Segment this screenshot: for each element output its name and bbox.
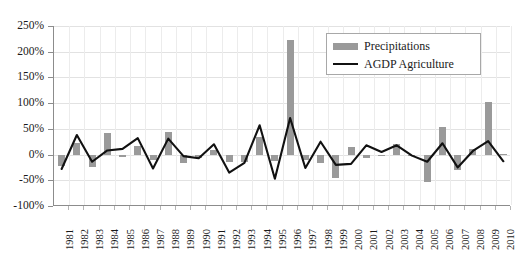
- x-axis-tick-mark: [312, 206, 313, 210]
- y-axis-tick-label: -50%: [19, 174, 44, 185]
- x-axis-tick-mark: [358, 206, 359, 210]
- x-axis-tick-mark: [221, 206, 222, 210]
- x-axis-tick-mark: [175, 206, 176, 210]
- x-axis-tick-label: 1982: [80, 229, 90, 250]
- chart-legend: Precipitations AGDP Agriculture: [326, 33, 481, 75]
- x-axis-tick-mark: [297, 206, 298, 210]
- x-axis-tick-mark: [68, 206, 69, 210]
- y-axis-tick-label: -100%: [13, 200, 44, 211]
- x-axis-tick-mark: [342, 206, 343, 210]
- x-axis-tick-mark: [205, 206, 206, 210]
- x-axis-tick-mark: [510, 206, 511, 210]
- legend-label-agdp-agriculture: AGDP Agriculture: [364, 58, 454, 71]
- x-axis-tick-label: 1993: [247, 229, 257, 250]
- x-axis-tick-label: 2000: [354, 229, 364, 250]
- x-axis-tick-label: 1996: [293, 229, 303, 250]
- precipitations-agdp-chart: 250%200%150%100%50%0%-50%-100% 198119821…: [0, 0, 520, 264]
- x-axis: 1981198219831984198519861987198819891990…: [53, 208, 510, 264]
- x-axis-tick-mark: [190, 206, 191, 210]
- y-axis: 250%200%150%100%50%0%-50%-100%: [0, 0, 48, 264]
- x-axis-tick-mark: [373, 206, 374, 210]
- x-axis-tick-label: 2003: [400, 229, 410, 250]
- x-axis-tick-mark: [251, 206, 252, 210]
- y-axis-tick-label: 150%: [17, 71, 44, 82]
- x-axis-tick-label: 1998: [324, 229, 334, 250]
- legend-item-precipitations: Precipitations: [333, 37, 476, 55]
- x-axis-tick-mark: [480, 206, 481, 210]
- x-axis-tick-mark: [282, 206, 283, 210]
- x-axis-tick-label: 1997: [308, 229, 318, 250]
- x-axis-tick-label: 2009: [491, 229, 501, 250]
- x-axis-tick-mark: [419, 206, 420, 210]
- x-axis-tick-mark: [464, 206, 465, 210]
- gridline-vertical: [511, 26, 512, 205]
- x-axis-tick-label: 1986: [141, 229, 151, 250]
- x-axis-tick-label: 1992: [232, 229, 242, 250]
- x-axis-tick-mark: [449, 206, 450, 210]
- x-axis-tick-label: 1983: [95, 229, 105, 250]
- x-axis-tick-mark: [144, 206, 145, 210]
- x-axis-tick-label: 2004: [415, 229, 425, 250]
- legend-item-agdp-agriculture: AGDP Agriculture: [333, 55, 476, 73]
- x-axis-tick-label: 2006: [445, 229, 455, 250]
- line-swatch-icon: [333, 63, 358, 65]
- y-axis-tick-label: 50%: [23, 123, 44, 134]
- legend-label-precipitations: Precipitations: [364, 40, 430, 53]
- x-axis-tick-mark: [160, 206, 161, 210]
- y-axis-tick-label: 100%: [17, 97, 44, 108]
- x-axis-tick-mark: [495, 206, 496, 210]
- x-axis-tick-label: 1991: [217, 229, 227, 250]
- x-axis-tick-label: 2005: [430, 229, 440, 250]
- x-axis-tick-mark: [434, 206, 435, 210]
- x-axis-tick-label: 2008: [476, 229, 486, 250]
- bar-swatch-icon: [333, 43, 358, 50]
- x-axis-tick-mark: [236, 206, 237, 210]
- x-axis-tick-mark: [327, 206, 328, 210]
- x-axis-tick-label: 1995: [278, 229, 288, 250]
- x-axis-tick-mark: [403, 206, 404, 210]
- y-axis-tick-label: 250%: [17, 20, 44, 31]
- x-axis-tick-label: 1999: [339, 229, 349, 250]
- agdp-line-path: [62, 118, 504, 179]
- x-axis-tick-mark: [266, 206, 267, 210]
- y-axis-tick-label: 200%: [17, 46, 44, 57]
- x-axis-tick-label: 1987: [156, 229, 166, 250]
- x-axis-tick-mark: [388, 206, 389, 210]
- x-axis-tick-mark: [83, 206, 84, 210]
- x-axis-tick-mark: [129, 206, 130, 210]
- x-axis-tick-label: 2010: [506, 229, 516, 250]
- y-axis-tick-label: 0%: [29, 149, 44, 160]
- x-axis-tick-mark: [99, 206, 100, 210]
- y-axis-tick-mark: [48, 206, 53, 207]
- x-axis-tick-label: 1990: [202, 229, 212, 250]
- x-axis-tick-label: 2001: [369, 229, 379, 250]
- x-axis-tick-label: 1981: [65, 229, 75, 250]
- x-axis-tick-label: 1985: [126, 229, 136, 250]
- x-axis-tick-label: 1988: [171, 229, 181, 250]
- x-axis-tick-label: 2002: [385, 229, 395, 250]
- x-axis-tick-label: 2007: [461, 229, 471, 250]
- x-axis-tick-mark: [114, 206, 115, 210]
- x-axis-tick-label: 1994: [263, 229, 273, 250]
- x-axis-tick-label: 1984: [110, 229, 120, 250]
- x-axis-tick-label: 1989: [186, 229, 196, 250]
